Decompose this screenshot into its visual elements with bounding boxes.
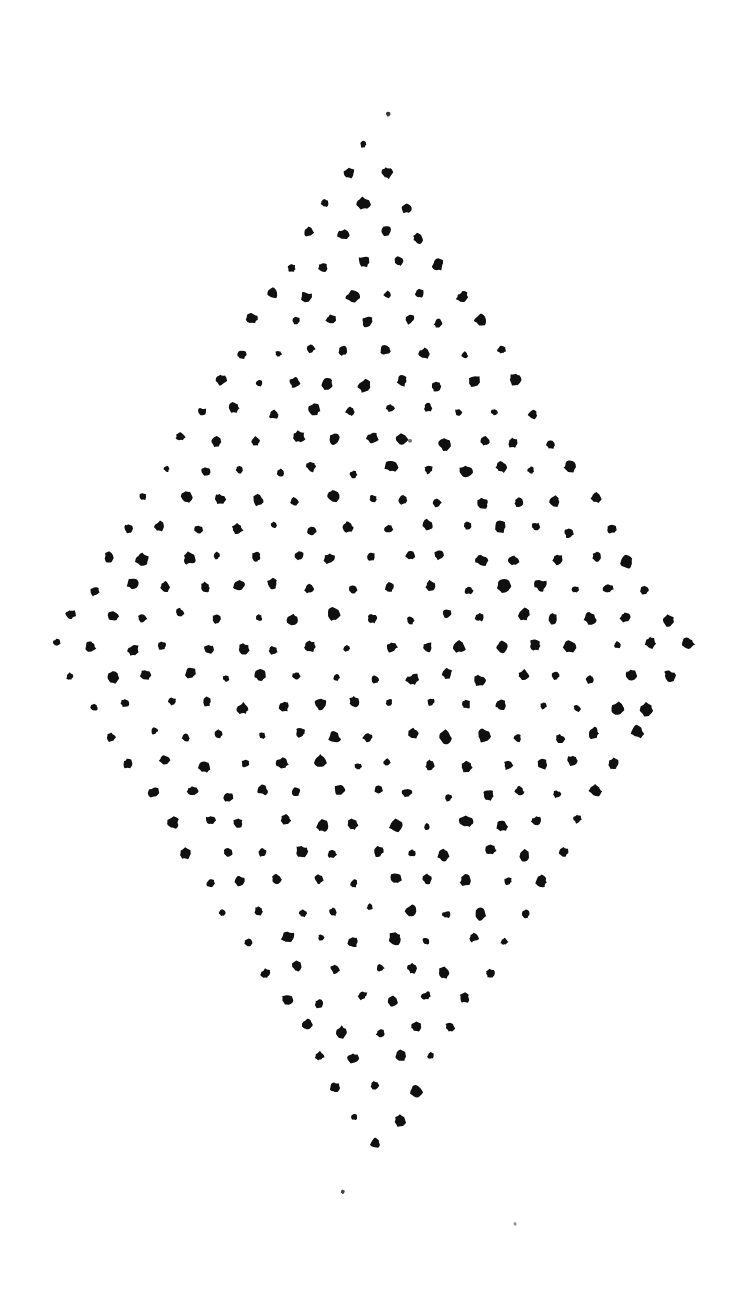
lattice-dot	[330, 1083, 340, 1093]
figure-canvas	[0, 0, 745, 1296]
background-rect	[0, 0, 745, 1296]
dot-lattice-svg	[0, 0, 745, 1296]
